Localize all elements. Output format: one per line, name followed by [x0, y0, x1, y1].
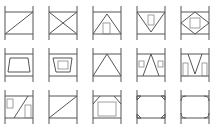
- panel-rounded-corner-gussets: [178, 90, 212, 124]
- panel-inverted-v-with-side-openings: [178, 48, 212, 82]
- panel-offset-trapezoid-opening: [46, 48, 82, 82]
- panel-trapezoid-opening: [2, 48, 38, 82]
- panel-corner-gussets: [134, 90, 170, 124]
- panel-inverted-chevron-with-window: [134, 6, 170, 40]
- panel-diagonal-with-openings: [2, 90, 38, 124]
- panel-knee-braced-portal: [90, 90, 126, 124]
- panel-single-diagonal: [2, 6, 38, 40]
- panel-single-diagonal-long: [46, 90, 82, 124]
- bracing-diagram-grid: [0, 0, 212, 127]
- panel-chevron-with-side-windows: [134, 48, 170, 82]
- panel-chevron: [90, 48, 126, 82]
- panel-chevron-with-door: [90, 6, 126, 40]
- panel-diamond-with-opening: [178, 6, 212, 40]
- panel-x-brace: [46, 6, 82, 40]
